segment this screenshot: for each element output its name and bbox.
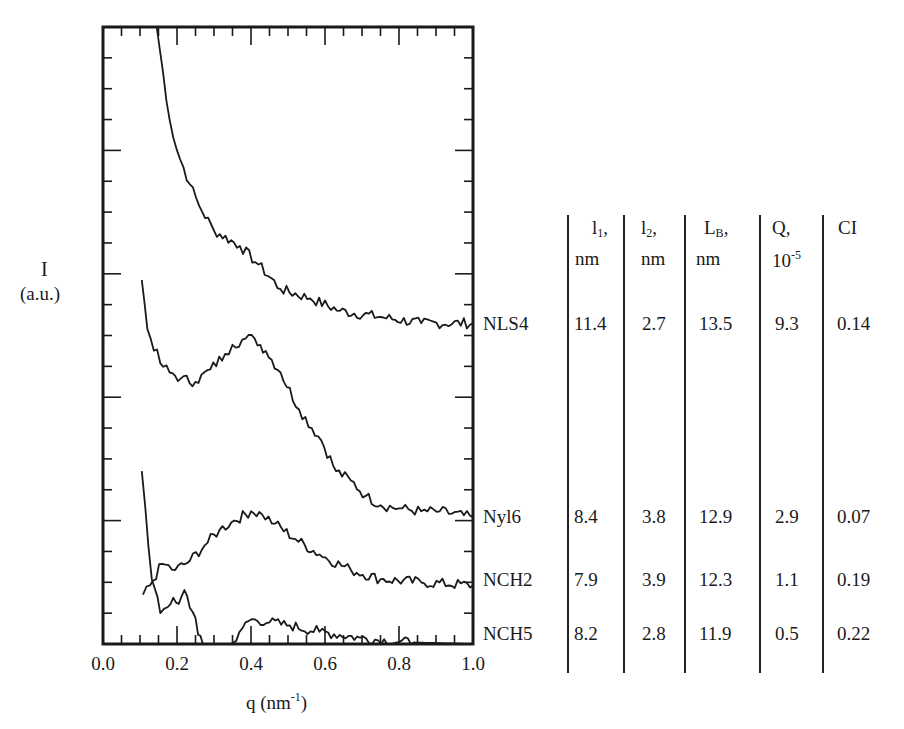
table-cell: 3.8 [642,506,666,528]
header-lb-sub: B [716,226,724,240]
x-tick-label: 1.0 [461,653,485,674]
x-axis-label-exponent: -1 [291,690,301,704]
table-cell: 0.22 [837,623,870,645]
x-tick-label: 0.2 [165,653,189,674]
curve-nch2 [143,511,473,595]
header-l1-unit: nm [575,248,599,270]
table-cell: 8.2 [574,623,598,645]
table-cell: 13.5 [699,313,732,335]
table-cell: 12.3 [699,569,732,591]
table-cell: 0.07 [837,506,870,528]
table-cell: 2.7 [642,313,666,335]
header-q: Q, [772,217,790,239]
saxs-plot: 0.00.20.40.60.81.0 [0,0,904,729]
x-axis-label-text: q (nm [246,692,291,713]
series-label-nyl6: Nyl6 [483,506,521,528]
x-tick-label: 0.4 [239,653,263,674]
header-l2-tail: , [652,217,657,238]
table-cell: 0.19 [837,569,870,591]
curve-nyl6 [142,280,473,518]
table-divider-1 [567,215,569,673]
table-cell: 0.5 [775,623,799,645]
table-cell: 12.9 [699,506,732,528]
x-tick-label: 0.0 [91,653,115,674]
table-cell: 2.8 [642,623,666,645]
table-divider-4 [759,215,761,673]
header-l2-unit: nm [641,248,665,270]
header-lb: LB, [704,217,728,241]
x-axis-label: q (nm-1) [246,690,307,714]
series-label-nch5: NCH5 [483,623,533,645]
header-q-unit-exp: -5 [791,248,801,262]
series-label-nch2: NCH2 [483,569,533,591]
curve-nls4 [157,27,473,329]
table-divider-5 [822,215,824,673]
header-lb-tail: , [724,217,729,238]
y-axis-unit: (a.u.) [20,283,60,305]
x-axis-label-close: ) [301,692,307,713]
header-q-unit: 10-5 [772,248,801,272]
table-cell: 7.9 [574,569,598,591]
header-lb-main: L [704,217,716,238]
plot-frame [103,27,473,644]
header-l2: l2, [641,217,657,241]
table-cell: 11.9 [699,623,732,645]
x-tick-label: 0.6 [313,653,337,674]
table-cell: 3.9 [642,569,666,591]
table-cell: 2.9 [775,506,799,528]
header-q-unit-base: 10 [772,250,791,271]
y-axis-label: I [41,258,48,281]
table-cell: 9.3 [775,313,799,335]
series-label-nls4: NLS4 [483,313,528,335]
x-tick-label: 0.8 [387,653,411,674]
header-lb-unit: nm [696,248,720,270]
header-l1: l1, [592,217,608,241]
header-ci: CI [838,217,857,239]
table-cell: 1.1 [775,569,799,591]
table-cell: 8.4 [574,506,598,528]
table-divider-2 [623,215,625,673]
table-divider-3 [684,215,686,673]
table-cell: 0.14 [837,313,870,335]
header-l1-tail: , [603,217,608,238]
table-cell: 11.4 [574,313,607,335]
